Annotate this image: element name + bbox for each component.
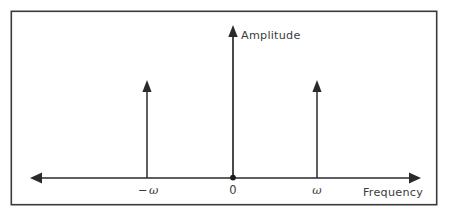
figure-canvas: Amplitude Frequency − ω 0 ω — [0, 0, 449, 216]
x-tick-label-positive-omega: ω — [312, 183, 322, 197]
figure-border — [11, 11, 436, 204]
y-axis-label: Amplitude — [241, 29, 301, 42]
spectrum-figure: Amplitude Frequency − ω 0 ω — [0, 0, 449, 216]
x-tick-label-negative-omega: − ω — [138, 183, 159, 197]
x-tick-negative-omega-symbol: ω — [149, 183, 159, 197]
x-tick-negative-sign: − — [138, 183, 148, 197]
origin-dot-icon — [230, 175, 236, 181]
x-tick-label-zero: 0 — [229, 183, 237, 197]
x-axis-label: Frequency — [363, 186, 423, 199]
